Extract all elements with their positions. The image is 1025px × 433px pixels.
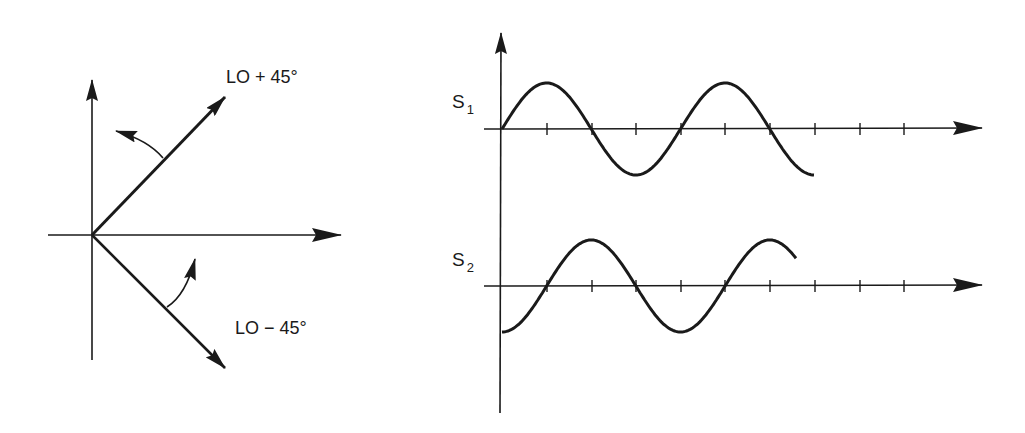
rotation-arrow-lower-icon [167,259,195,307]
lo-plus-45-label: LO + 45° [226,67,298,87]
diagram-canvas: LO + 45° LO − 45° S1 [0,0,1025,433]
phasor-diagram: LO + 45° LO − 45° [48,67,341,368]
s2-time-axis [484,285,982,286]
s1-time-axis [484,128,982,129]
lo-minus-45-vector [92,235,225,368]
s2-label: S2 [452,249,474,275]
s1-label: S1 [452,91,474,117]
lo-plus-45-vector [92,97,225,235]
rotation-arrow-upper-icon [116,131,163,158]
waveform-plot: S1 S2 [452,33,982,413]
amplitude-axis [500,33,501,413]
lo-minus-45-label: LO − 45° [235,318,307,338]
